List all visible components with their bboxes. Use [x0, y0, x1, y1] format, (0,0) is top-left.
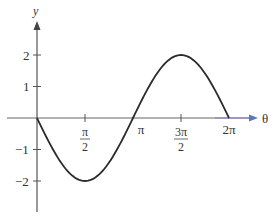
x-tick-label-2pi: 2π [222, 122, 236, 137]
y-tick-label-neg1: −1 [15, 142, 29, 157]
x-tick-label-pi: π [138, 122, 145, 137]
chart-plot: θ y 2 1 −1 −2 π 2 π 3π 2 2π [0, 0, 276, 218]
x-axis-label: θ [262, 111, 268, 126]
x-tick-label-pi-half-num: π [82, 125, 88, 139]
x-tick-label-3pi-half-num: 3π [175, 125, 187, 139]
x-axis-arrow-icon [249, 115, 258, 122]
y-axis-label: y [32, 4, 39, 18]
y-axis-arrow-icon [34, 21, 41, 30]
y-tick-label-1: 1 [23, 79, 30, 94]
y-tick-label-2: 2 [23, 48, 30, 63]
x-tick-label-3pi-half-den: 2 [178, 140, 184, 154]
x-tick-label-pi-half-den: 2 [82, 140, 88, 154]
y-tick-label-neg2: −2 [15, 174, 29, 189]
